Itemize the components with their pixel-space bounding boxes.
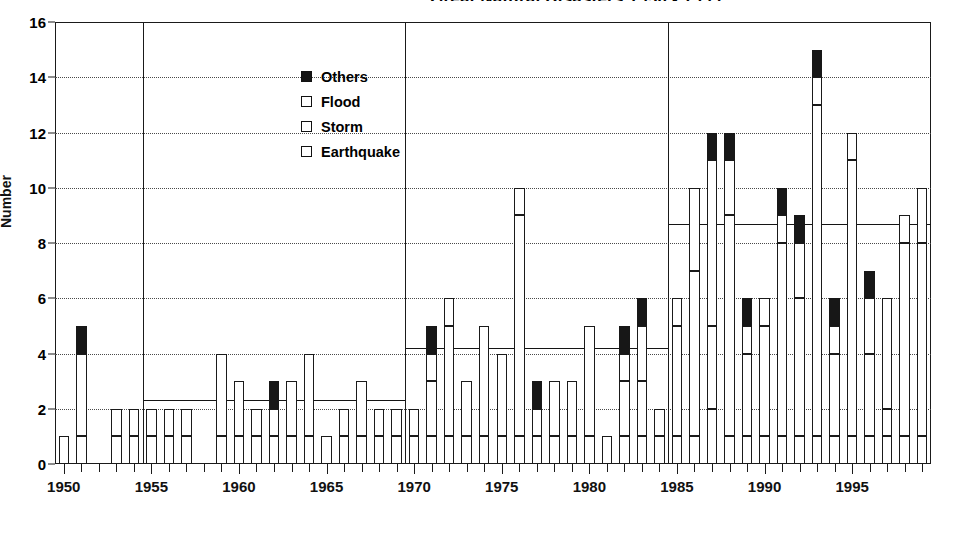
bar-segment-1995-storm (847, 160, 858, 436)
y-tick-label-0: 0 (6, 456, 46, 473)
bar-1982[interactable] (619, 22, 630, 464)
bar-1975[interactable] (497, 22, 508, 464)
bar-1985[interactable] (672, 22, 683, 464)
bar-1957[interactable] (181, 22, 192, 464)
legend-swatch-flood-icon (301, 96, 312, 107)
y-tick-mark-14 (48, 77, 55, 78)
bar-segment-1987-storm (707, 326, 718, 409)
x-tick-mark-1974 (484, 464, 485, 472)
legend-swatch-earthquake-icon (301, 146, 312, 157)
plot-area: Others Flood Storm Earthquake (55, 22, 931, 464)
bar-1950[interactable] (59, 22, 70, 464)
x-tick-mark-1973 (467, 464, 468, 472)
y-tick-label-4: 4 (6, 345, 46, 362)
bar-1984[interactable] (654, 22, 665, 464)
bar-segment-1970-storm (409, 409, 420, 437)
bar-1996[interactable] (864, 22, 875, 464)
bar-segment-1982-earthquake (619, 436, 630, 464)
bar-segment-1956-earthquake (164, 436, 175, 464)
bar-segment-1987-others (707, 133, 718, 161)
y-tick-mark-16 (48, 22, 55, 23)
bar-1995[interactable] (847, 22, 858, 464)
bar-segment-1984-earthquake (654, 436, 665, 464)
bar-1977[interactable] (532, 22, 543, 464)
bar-1999[interactable] (917, 22, 928, 464)
bar-1989[interactable] (742, 22, 753, 464)
x-tick-mark-1955 (151, 464, 152, 474)
bar-1955[interactable] (146, 22, 157, 464)
bar-1987[interactable] (707, 22, 718, 464)
x-tick-mark-1965 (327, 464, 328, 474)
bar-1978[interactable] (549, 22, 560, 464)
bar-1997[interactable] (882, 22, 893, 464)
x-tick-mark-1960 (239, 464, 240, 474)
bar-1954[interactable] (129, 22, 140, 464)
legend-item-storm[interactable]: Storm (301, 114, 471, 139)
bar-segment-1985-storm (672, 326, 683, 437)
y-tick-mark-8 (48, 243, 55, 244)
bar-segment-1995-flood (847, 133, 858, 161)
bar-1960[interactable] (234, 22, 245, 464)
bar-segment-1992-flood (794, 243, 805, 298)
bar-1990[interactable] (759, 22, 770, 464)
bar-segment-1992-others (794, 215, 805, 243)
x-tick-mark-1968 (379, 464, 380, 472)
legend-item-others[interactable]: Others (301, 64, 471, 89)
bar-segment-1969-storm (391, 409, 402, 437)
bar-segment-1997-flood (882, 298, 893, 409)
bar-1998[interactable] (899, 22, 910, 464)
bar-1962[interactable] (269, 22, 280, 464)
bar-segment-1996-others (864, 271, 875, 299)
bar-segment-1978-earthquake (549, 436, 560, 464)
x-tick-mark-1975 (502, 464, 503, 474)
bar-1979[interactable] (567, 22, 578, 464)
x-axis: 1950195519601965197019751980198519901995 (55, 464, 931, 514)
bar-segment-1959-earthquake (216, 436, 227, 464)
bar-segment-1951-others (76, 326, 87, 354)
bar-segment-1972-storm (444, 326, 455, 437)
legend-swatch-others-icon (301, 71, 312, 82)
legend-item-flood[interactable]: Flood (301, 89, 471, 114)
bar-1961[interactable] (251, 22, 262, 464)
bar-segment-1963-earthquake (286, 436, 297, 464)
bar-1974[interactable] (479, 22, 490, 464)
x-tick-mark-1971 (432, 464, 433, 472)
bar-segment-1972-earthquake (444, 436, 455, 464)
bar-segment-1986-flood (689, 188, 700, 271)
x-tick-mark-1995 (852, 464, 853, 474)
bar-segment-1962-others (269, 381, 280, 409)
x-tick-mark-1985 (677, 464, 678, 474)
y-tick-label-14: 14 (6, 69, 46, 86)
bar-1993[interactable] (812, 22, 823, 464)
bar-segment-1984-storm (654, 409, 665, 437)
bar-1983[interactable] (637, 22, 648, 464)
bar-1976[interactable] (514, 22, 525, 464)
bar-1980[interactable] (584, 22, 595, 464)
bar-1956[interactable] (164, 22, 175, 464)
bar-segment-1956-storm (164, 409, 175, 437)
x-tick-mark-1950 (64, 464, 65, 474)
bar-1959[interactable] (216, 22, 227, 464)
bar-1963[interactable] (286, 22, 297, 464)
bar-1991[interactable] (777, 22, 788, 464)
bar-1988[interactable] (724, 22, 735, 464)
bar-segment-1974-storm (479, 326, 490, 437)
bar-segment-1983-flood (637, 326, 648, 381)
bar-1994[interactable] (829, 22, 840, 464)
legend-label-earthquake: Earthquake (321, 144, 400, 160)
page-title: Great Natural Disasters 1950 - 1999 (430, 0, 960, 1)
y-tick-label-12: 12 (6, 124, 46, 141)
legend-item-earthquake[interactable]: Earthquake (301, 139, 471, 164)
bar-1951[interactable] (76, 22, 87, 464)
bar-1953[interactable] (111, 22, 122, 464)
bar-segment-1976-earthquake (514, 436, 525, 464)
x-tick-mark-1993 (817, 464, 818, 472)
bar-segment-1989-flood (742, 326, 753, 354)
bar-1992[interactable] (794, 22, 805, 464)
x-tick-mark-1998 (905, 464, 906, 472)
bar-segment-1993-earthquake (812, 436, 823, 464)
x-tick-mark-1986 (694, 464, 695, 472)
bar-1986[interactable] (689, 22, 700, 464)
x-tick-mark-1983 (642, 464, 643, 472)
bar-1981[interactable] (602, 22, 613, 464)
